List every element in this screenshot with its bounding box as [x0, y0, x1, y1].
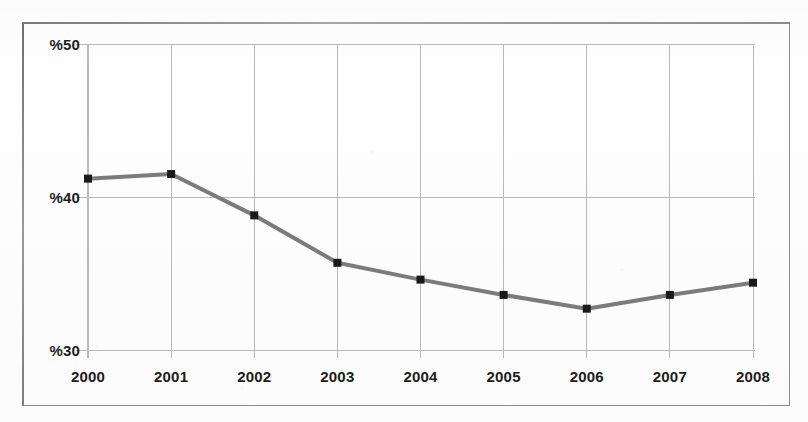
x-axis-tick-label: 2000 — [71, 368, 105, 385]
x-axis-tick-label: 2003 — [320, 368, 354, 385]
data-point-marker — [84, 175, 92, 183]
data-point-marker — [250, 211, 258, 219]
data-point-marker — [333, 259, 341, 267]
vertical-gridlines — [88, 44, 753, 358]
x-axis-tick-label: 2006 — [570, 368, 604, 385]
x-axis-tick-label: 2008 — [736, 368, 770, 385]
chart-screenshot: %30%40%50 200020012002200320042005200620… — [0, 0, 808, 422]
y-axis-tick-label: %30 — [36, 342, 80, 359]
horizontal-gridlines — [76, 44, 755, 350]
data-point-marker — [167, 170, 175, 178]
line-chart-plot — [0, 0, 808, 422]
x-axis-tick-label: 2002 — [237, 368, 271, 385]
data-point-marker — [500, 291, 508, 299]
x-axis-tick-label: 2004 — [403, 368, 437, 385]
data-point-marker — [417, 276, 425, 284]
data-point-marker — [583, 305, 591, 313]
data-point-marker — [666, 291, 674, 299]
data-point-marker — [749, 279, 757, 287]
y-axis-tick-label: %40 — [36, 189, 80, 206]
x-axis-tick-label: 2001 — [154, 368, 188, 385]
y-axis-tick-label: %50 — [36, 36, 80, 53]
x-axis-tick-label: 2005 — [487, 368, 521, 385]
x-axis-tick-label: 2007 — [653, 368, 687, 385]
